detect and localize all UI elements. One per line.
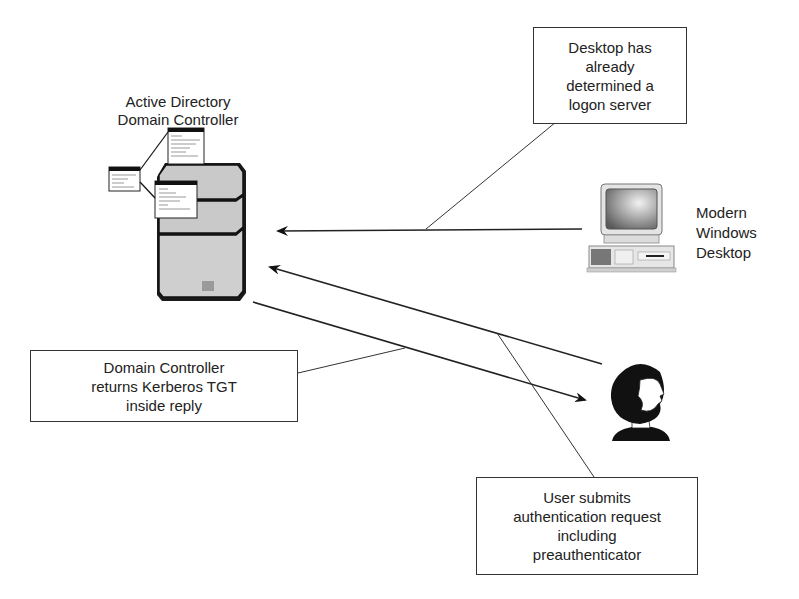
callout-text: already [534, 57, 686, 76]
arrow-desktop-to-dc [278, 229, 582, 231]
desktop-label-line2: Windows [696, 223, 757, 243]
dc-label-line2: Domain Controller [108, 111, 248, 129]
callout-text: Domain Controller [31, 358, 297, 377]
callout-tgt-reply: Domain Controller returns Kerberos TGT i… [30, 350, 298, 422]
callout-text: logon server [534, 95, 686, 114]
desktop-computer-icon [587, 184, 676, 272]
leader-tgt-reply [298, 348, 405, 373]
callout-logon-server: Desktop has already determined a logon s… [533, 27, 687, 124]
callout-text: Desktop has [534, 38, 686, 57]
callout-text: inside reply [31, 396, 297, 415]
callout-text: authentication request [477, 507, 697, 526]
desktop-label-line1: Modern [696, 203, 757, 223]
arrow-user-to-dc [270, 267, 602, 364]
dc-label-line1: Active Directory [108, 93, 248, 111]
leader-logon-server [426, 122, 556, 229]
callout-text: including [477, 526, 697, 545]
callout-text: determined a [534, 76, 686, 95]
callout-text: preauthenticator [477, 545, 697, 564]
desktop-label: Modern Windows Desktop [696, 203, 757, 263]
user-person-icon [611, 364, 670, 441]
callout-text: User submits [477, 488, 697, 507]
callout-text: returns Kerberos TGT [31, 377, 297, 396]
arrow-dc-to-user [253, 302, 585, 400]
desktop-label-line3: Desktop [696, 243, 757, 263]
domain-controller-label: Active Directory Domain Controller [108, 93, 248, 129]
server-tower-icon [109, 128, 246, 301]
callout-auth-request: User submits authentication request incl… [476, 477, 698, 575]
leader-auth-request [497, 333, 594, 477]
